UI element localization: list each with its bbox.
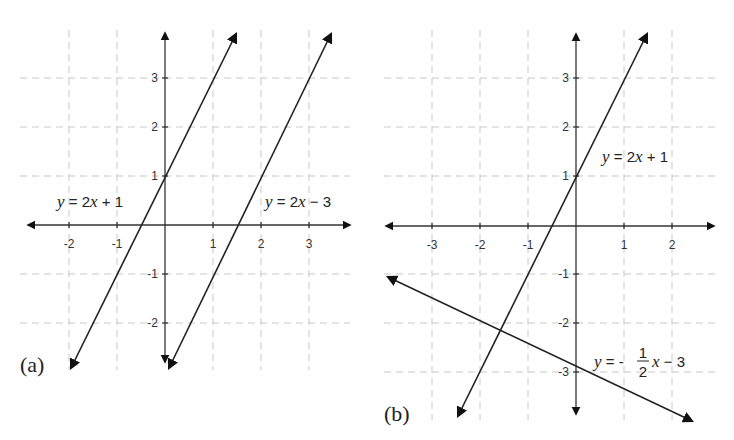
graph-a: -2 -1 1 2 3 3 2 1 -1 -2 y = 2x + 1 y = 2… (20, 30, 350, 377)
svg-text:-2: -2 (147, 316, 158, 330)
svg-text:y = -: y = - (592, 352, 624, 371)
svg-text:-1: -1 (147, 267, 158, 281)
svg-text:2: 2 (639, 363, 647, 380)
svg-text:-2: -2 (475, 238, 486, 252)
svg-text:1: 1 (621, 238, 628, 252)
equation-label-a-2: y = 2x − 3 (263, 192, 331, 211)
svg-text:3: 3 (306, 237, 313, 251)
svg-text:-3: -3 (558, 365, 569, 379)
svg-text:-1: -1 (523, 238, 534, 252)
svg-text:1: 1 (210, 237, 217, 251)
svg-text:2: 2 (151, 120, 158, 134)
graph-b: -3 -2 -1 1 2 3 2 1 -1 -2 -3 y = 2x + 1 y… (384, 30, 715, 426)
equation-label-b-1: y = 2x + 1 (600, 147, 668, 166)
svg-text:1: 1 (639, 344, 647, 361)
svg-text:-1: -1 (558, 267, 569, 281)
svg-text:-3: -3 (427, 238, 438, 252)
panel-label-b: (b) (384, 401, 410, 426)
svg-text:1: 1 (562, 169, 569, 183)
x-ticks-a: -2 -1 1 2 3 (64, 222, 313, 251)
svg-text:3: 3 (151, 71, 158, 85)
svg-text:2: 2 (669, 238, 676, 252)
svg-text:-2: -2 (64, 237, 75, 251)
svg-text:-2: -2 (558, 316, 569, 330)
svg-text:x − 3: x − 3 (651, 352, 685, 371)
figure: -2 -1 1 2 3 3 2 1 -1 -2 y = 2x + 1 y = 2… (0, 0, 734, 440)
equation-label-b-2: y = - 1 2 x − 3 (592, 344, 685, 380)
svg-text:1: 1 (151, 169, 158, 183)
svg-text:2: 2 (258, 237, 265, 251)
panel-label-a: (a) (20, 352, 44, 377)
svg-text:3: 3 (562, 71, 569, 85)
equation-label-a-1: y = 2x + 1 (55, 192, 123, 211)
svg-text:-1: -1 (112, 237, 123, 251)
svg-text:2: 2 (562, 120, 569, 134)
